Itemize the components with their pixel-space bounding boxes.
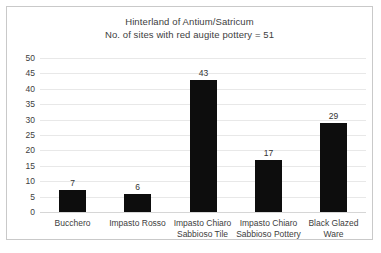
x-axis-category-label-line: Sabbioso Pottery [236, 229, 301, 240]
x-axis-category-label: Impasto ChiaroSabbioso Tile [170, 218, 235, 240]
y-axis-tick-label: 30 [26, 116, 35, 125]
bar[interactable]: 6 [124, 194, 151, 212]
axis-baseline [40, 212, 366, 213]
y-axis-tick-label: 10 [26, 177, 35, 186]
gridline [40, 58, 366, 59]
x-axis-category-label: Impasto ChiaroSabbioso Pottery [236, 218, 301, 240]
y-axis-tick-label: 35 [26, 100, 35, 109]
bar-value-label: 43 [199, 69, 208, 78]
x-axis-category-label-line: Bucchero [40, 218, 105, 229]
y-axis-tick-label: 50 [26, 54, 35, 63]
x-axis-category-label: Bucchero [40, 218, 105, 229]
x-axis-category-label-line: Sabbioso Tile [170, 229, 235, 240]
bar-value-label: 7 [70, 179, 75, 188]
bar[interactable]: 29 [320, 123, 347, 212]
chart-subtitle: No. of sites with red augite pottery = 5… [7, 28, 372, 41]
y-axis-tick-label: 5 [30, 193, 35, 202]
bar[interactable]: 7 [59, 190, 86, 212]
x-axis-category-label-line: Black Glazed [301, 218, 366, 229]
x-axis-category-label: Impasto Rosso [105, 218, 170, 229]
bar-value-label: 17 [264, 149, 273, 158]
y-axis-tick-label: 25 [26, 131, 35, 140]
x-axis-category-label-line: Impasto Chiaro [170, 218, 235, 229]
x-axis-category-label: Black GlazedWare [301, 218, 366, 240]
y-axis-tick-label: 15 [26, 162, 35, 171]
chart-container: Hinterland of Antium/Satricum No. of sit… [6, 6, 373, 240]
chart-title-block: Hinterland of Antium/Satricum No. of sit… [7, 15, 372, 41]
plot-area: 504540353025201510507Bucchero6Impasto Ro… [40, 58, 366, 212]
x-axis-category-label-line: Impasto Rosso [105, 218, 170, 229]
bar-value-label: 6 [135, 183, 140, 192]
y-axis-tick-label: 0 [30, 208, 35, 217]
bar-value-label: 29 [329, 112, 338, 121]
y-axis-tick-label: 40 [26, 85, 35, 94]
x-axis-category-label-line: Impasto Chiaro [236, 218, 301, 229]
y-axis-tick-label: 20 [26, 146, 35, 155]
x-axis-category-label-line: Ware [301, 229, 366, 240]
y-axis-tick-label: 45 [26, 69, 35, 78]
bar[interactable]: 43 [190, 80, 217, 212]
chart-title: Hinterland of Antium/Satricum [7, 15, 372, 28]
bar[interactable]: 17 [255, 160, 282, 212]
